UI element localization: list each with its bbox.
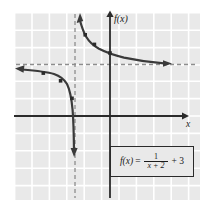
- y-axis-label: f(x): [114, 13, 128, 24]
- formula-equals: =: [135, 157, 140, 167]
- formula-expression: f(x) = 1 x + 2 + 3: [120, 153, 184, 171]
- rational-function-figure: f(x) x f(x) = 1 x + 2 + 3: [0, 0, 208, 220]
- formula-lhs: f(x): [120, 157, 133, 167]
- formula-numerator: 1: [152, 153, 160, 161]
- formula-denominator: x + 2: [146, 162, 167, 170]
- formula-fraction: 1 x + 2: [144, 153, 168, 171]
- formula-addend: + 3: [172, 157, 184, 167]
- x-axis-label: x: [186, 119, 190, 129]
- formula-box: f(x) = 1 x + 2 + 3: [110, 146, 194, 177]
